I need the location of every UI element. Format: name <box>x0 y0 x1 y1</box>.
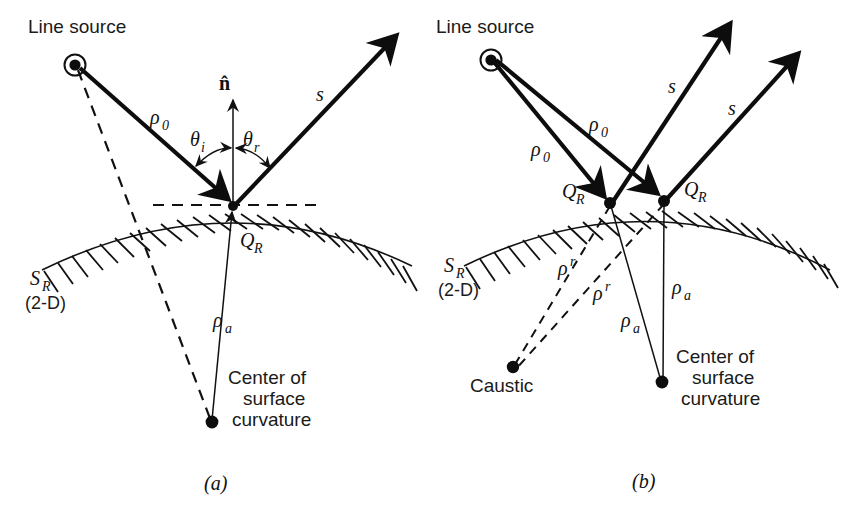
line-source-dot-a <box>69 59 80 70</box>
rho-a-label-right-b: ρ a <box>671 276 691 303</box>
center-label-line3-a: curvature <box>232 409 311 430</box>
s-label-left-b: s <box>668 75 676 97</box>
figure-container: Line source ρ 0 n̂ θ i θ r s Q R S R <box>0 0 852 513</box>
rho-r-label-lower-b: ρ r <box>592 279 611 305</box>
q-r-label-left-b: Q R <box>562 180 585 207</box>
svg-text:ρ: ρ <box>557 257 568 280</box>
surface-hatching-b <box>466 211 838 289</box>
center-of-curvature-dot-a <box>206 416 219 429</box>
rho-a-line-right-b <box>663 204 664 381</box>
svg-text:0: 0 <box>543 150 550 165</box>
reflection-diagram: Line source ρ 0 n̂ θ i θ r s Q R S R <box>0 0 852 513</box>
panel-b: Line source ρ 0 ρ 0 s s Q R Q R S R <box>436 16 838 493</box>
theta-r-arc-a <box>236 148 270 168</box>
q-r-point-dot-a <box>228 201 238 211</box>
s-label-a: s <box>316 83 324 105</box>
normal-label-a: n̂ <box>219 72 230 94</box>
s-label-right-b: s <box>728 97 736 119</box>
center-label-line3-b: curvature <box>681 388 760 409</box>
svg-text:θ: θ <box>243 128 253 150</box>
center-label-line2-b: surface <box>692 367 754 388</box>
svg-text:ρ: ρ <box>588 113 599 136</box>
q-r-point-dot-right-b <box>658 195 670 207</box>
q-r-label-right-b: Q R <box>684 178 707 205</box>
center-label-line1-b: Center of <box>676 346 755 367</box>
caustic-dot-b <box>507 361 519 373</box>
svg-text:Q: Q <box>562 180 577 202</box>
reflected-ray-left-b <box>612 24 730 203</box>
svg-text:ρ: ρ <box>212 309 223 332</box>
panel-caption-a: (a) <box>204 472 228 495</box>
svg-text:ρ: ρ <box>530 138 541 161</box>
svg-text:0: 0 <box>601 125 608 140</box>
svg-text:R: R <box>575 192 585 207</box>
dimension-label-a: (2-D) <box>25 293 66 313</box>
svg-text:R: R <box>41 279 51 294</box>
svg-text:a: a <box>225 321 232 336</box>
svg-text:ρ: ρ <box>620 309 631 332</box>
svg-text:a: a <box>684 288 691 303</box>
svg-text:ρ: ρ <box>149 106 160 129</box>
rho-0-label-left-b: ρ 0 <box>530 138 550 165</box>
svg-text:r: r <box>605 279 611 294</box>
line-source-label-a: Line source <box>28 16 126 37</box>
panel-a: Line source ρ 0 n̂ θ i θ r s Q R S R <box>25 16 417 495</box>
surface-label-b: S R <box>444 254 465 281</box>
svg-text:Q: Q <box>240 229 255 251</box>
svg-text:0: 0 <box>162 118 169 133</box>
rho-a-line-left-b <box>611 206 661 381</box>
line-source-dot-b <box>485 54 496 65</box>
svg-text:ρ: ρ <box>671 276 682 299</box>
svg-text:r: r <box>254 140 260 155</box>
svg-text:Q: Q <box>684 178 699 200</box>
incident-ray-left-b <box>494 62 604 196</box>
surface-label-a: S R <box>30 267 51 294</box>
svg-text:a: a <box>633 321 640 336</box>
rho-r-label-upper-b: ρ r <box>557 254 576 280</box>
theta-r-label-a: θ r <box>243 128 260 155</box>
svg-text:i: i <box>201 140 205 155</box>
q-r-point-dot-left-b <box>604 197 616 209</box>
svg-text:θ: θ <box>190 128 200 150</box>
svg-text:R: R <box>455 266 465 281</box>
svg-text:S: S <box>30 267 40 289</box>
theta-i-label-a: θ i <box>190 128 205 155</box>
svg-text:r: r <box>570 254 576 269</box>
reflected-ray-a <box>235 36 396 205</box>
svg-text:R: R <box>253 241 263 256</box>
center-label-line1-a: Center of <box>228 367 307 388</box>
center-of-curvature-dot-b <box>656 376 669 389</box>
panel-caption-b: (b) <box>632 470 656 493</box>
svg-text:ρ: ρ <box>592 282 603 305</box>
dimension-label-b: (2-D) <box>438 280 479 300</box>
rho-a-label-left-b: ρ a <box>620 309 640 336</box>
svg-text:S: S <box>444 254 454 276</box>
line-source-label-b: Line source <box>436 16 534 37</box>
rho-a-label-a: ρ a <box>212 309 232 336</box>
center-label-line2-a: surface <box>243 388 305 409</box>
svg-text:R: R <box>697 190 707 205</box>
q-r-label-a: Q R <box>240 229 263 256</box>
caustic-label-b: Caustic <box>470 375 533 396</box>
